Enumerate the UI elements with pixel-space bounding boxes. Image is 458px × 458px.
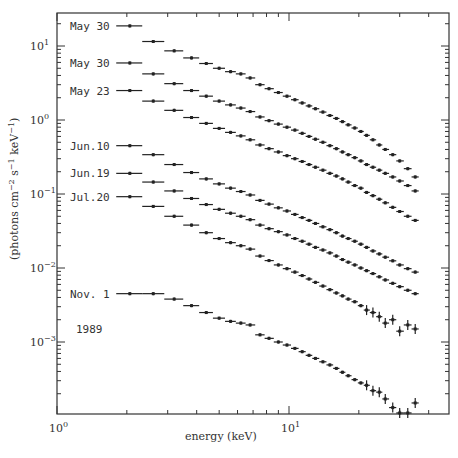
series-label: Jun.10 xyxy=(70,140,110,153)
spectrum-chart: 10110010−110−210−3 100101 May 30May 30Ma… xyxy=(0,0,458,458)
x-axis-ticks: 100101 xyxy=(49,13,429,435)
series-labels: May 30May 30May 23Jun.10Jun.19Jul.20Nov.… xyxy=(70,20,110,301)
series-2 xyxy=(116,89,418,222)
y-axis-ticks: 10110010−110−210−3 xyxy=(30,24,449,394)
y-tick-label: 10−2 xyxy=(30,260,56,275)
series-1 xyxy=(116,61,418,192)
y-tick-label: 101 xyxy=(30,38,49,53)
series-label: Jul.20 xyxy=(70,191,110,204)
data-series xyxy=(116,24,418,418)
series-3 xyxy=(116,144,418,273)
series-label: May 30 xyxy=(70,20,110,33)
series-5 xyxy=(116,195,418,336)
svg-text:(photons cm−2 s−1 keV−1): (photons cm−2 s−1 keV−1) xyxy=(7,118,21,260)
series-label: Jun.19 xyxy=(70,167,110,180)
y-axis-label: (photons cm−2 s−1 keV−1) xyxy=(7,118,21,260)
series-label: May 30 xyxy=(70,57,110,70)
y-tick-label: 10−1 xyxy=(30,186,56,201)
x-axis-label: energy (keV) xyxy=(185,430,257,443)
series-label: May 23 xyxy=(70,85,110,98)
x-tick-label: 101 xyxy=(281,420,300,435)
series-4 xyxy=(116,172,418,295)
year-annotation: 1989 xyxy=(76,323,103,336)
series-label: Nov. 1 xyxy=(70,288,110,301)
y-tick-label: 100 xyxy=(30,112,49,127)
plot-frame xyxy=(57,13,449,414)
x-tick-label: 100 xyxy=(49,420,68,435)
y-tick-label: 10−3 xyxy=(30,334,56,349)
